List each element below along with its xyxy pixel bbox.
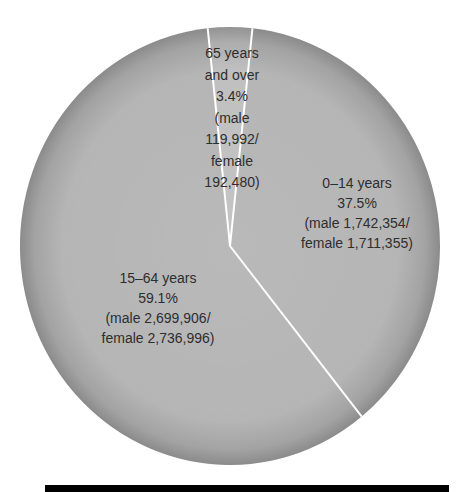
slice-label-line: (male 1,742,354/: [304, 215, 409, 231]
slice-label-line: 65 years: [205, 45, 259, 61]
pie-chart: 65 yearsand over3.4%(male119,992/female1…: [0, 0, 470, 492]
slice-label-line: female 2,736,996): [102, 330, 215, 346]
slice-label-line: 192,480): [204, 174, 259, 190]
slice-label-line: 37.5%: [337, 195, 377, 211]
slice-label-line: female: [211, 153, 253, 169]
slice-label-line: 59.1%: [138, 290, 178, 306]
slice-label-line: (male 2,699,906/: [105, 310, 210, 326]
slice-label-line: 15–64 years: [119, 270, 196, 286]
slice-label-line: 119,992/: [205, 131, 259, 147]
slice-label-line: (male: [214, 110, 249, 126]
slice-label-line: and over: [205, 67, 260, 83]
footer-bar: [45, 485, 449, 492]
slice-label-line: female 1,711,355): [301, 235, 413, 251]
slice-label-line: 0–14 years: [322, 175, 391, 191]
slice-label-line: 3.4%: [216, 88, 248, 104]
